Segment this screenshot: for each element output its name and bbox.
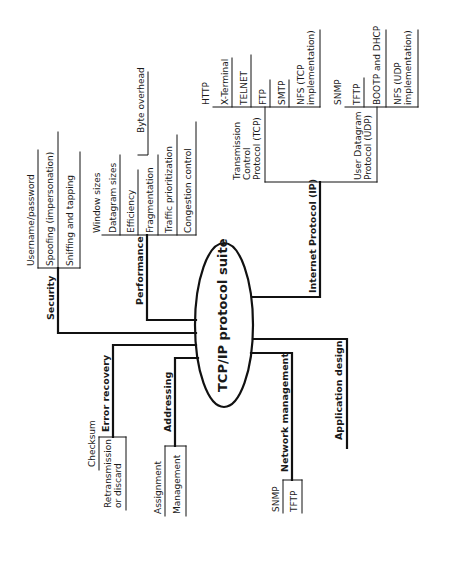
performance-item: Datagram sizes [108,163,118,233]
tcp-item: SMTP [277,81,287,105]
performance-item: Efficiency [126,190,136,233]
branch-performance-label: Performance [135,236,145,305]
udp-item: BOOTP and DHCP [372,26,382,105]
udp-item: SNMP [333,79,343,105]
udp-item: NFS (UDP implementation) [393,30,413,105]
branch-addressing-label: Addressing [163,372,173,432]
performance-item: Window sizes [92,173,102,234]
performance-subitem: Byte overhead [136,67,146,133]
tcp-label: Transmission Control Protocol (TCP) [232,117,262,180]
tcp-item: NFS (TCP implementation) [296,30,316,105]
tcp-item: FTP [258,89,268,105]
security-item: Spoofing (impersonation) [45,152,55,266]
center-node-label: TCP/IP protocol suite [216,239,230,392]
branch-application-design-label: Application design [334,340,344,440]
performance-item: Traffic prioritization [164,146,174,233]
security-item: Sniffing and tapping [65,175,75,266]
addressing-item: Management [172,455,182,514]
udp-label: User Datagram Protocol (UDP) [353,111,373,180]
performance-item: Congestion control [183,148,193,233]
tcpip-mind-map: TCP/IP protocol suite Security Username/… [0,0,454,572]
error-recovery-item: Checksum [87,420,97,467]
tcp-item: TELNET [239,71,249,105]
security-item: Username/password [26,174,36,266]
branch-network-management-label: Network management [280,353,290,472]
network-management-item: SNMP [271,486,281,512]
branch-ip-label: Internet Protocol (IP) [308,179,318,293]
branch-error-recovery-label: Error recovery [101,355,111,432]
udp-item: TFTP [352,84,362,105]
tcp-item: HTTP [201,82,211,105]
performance-item: Fragmentation [145,167,155,233]
error-recovery-item: Retransmission or discard [103,439,123,508]
addressing-item: Assignment [153,461,163,514]
tcp-item: X-Terminal [220,59,230,105]
branch-security-label: Security [46,276,56,320]
network-management-item: TFTP [289,491,299,512]
